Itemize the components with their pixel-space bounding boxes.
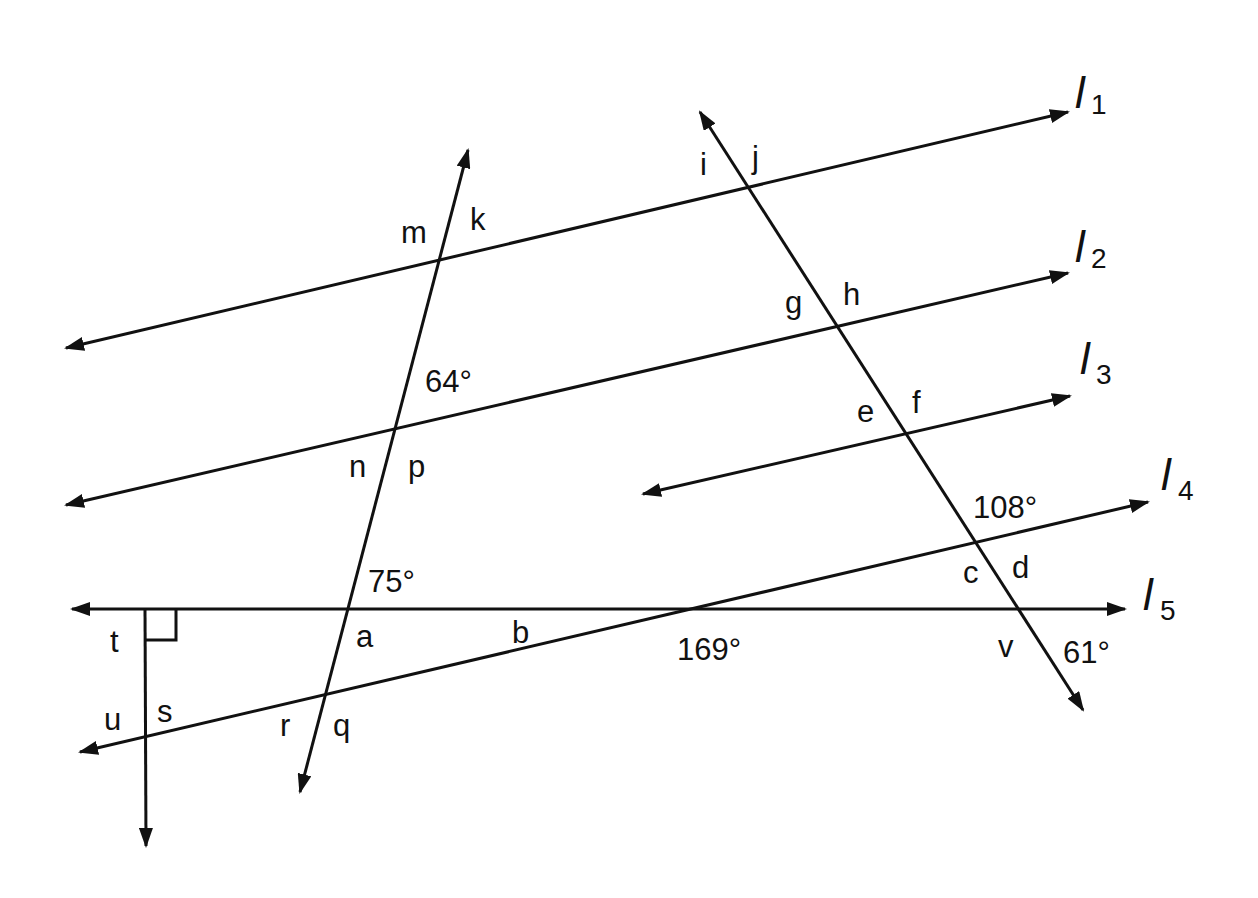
label-l4: l 4	[1161, 450, 1194, 506]
svg-text:5: 5	[1160, 595, 1176, 626]
label-l3: l 3	[1080, 334, 1112, 390]
geometry-diagram: l 1 l 2 l 3 l 4 l 5 i j m k g h e f n p …	[0, 0, 1258, 898]
angle-measure-108: 108°	[973, 490, 1037, 525]
svg-text:l: l	[1080, 334, 1091, 383]
angle-label-t: t	[110, 624, 119, 659]
transversal-right	[700, 112, 1083, 710]
label-l2: l 2	[1075, 222, 1107, 274]
svg-text:1: 1	[1091, 89, 1107, 120]
angle-measure-61: 61°	[1063, 635, 1110, 670]
svg-text:l: l	[1143, 570, 1154, 619]
angle-label-r: r	[280, 708, 290, 743]
label-l5: l 5	[1143, 570, 1176, 626]
angle-measure-75: 75°	[368, 564, 415, 599]
angle-label-k: k	[470, 202, 486, 237]
angle-label-a: a	[356, 619, 374, 654]
label-l1: l 1	[1075, 68, 1107, 120]
angle-label-q: q	[333, 708, 350, 743]
angle-label-m: m	[401, 215, 427, 250]
angle-label-d: d	[1012, 550, 1029, 585]
svg-text:3: 3	[1096, 359, 1112, 390]
svg-text:l: l	[1075, 222, 1086, 271]
svg-text:l: l	[1161, 450, 1172, 499]
angle-label-b: b	[512, 615, 529, 650]
transversal-vertical	[145, 609, 146, 846]
svg-text:4: 4	[1178, 475, 1194, 506]
svg-text:l: l	[1075, 68, 1086, 117]
angle-label-i: i	[700, 147, 707, 182]
angle-label-f: f	[912, 385, 921, 420]
angle-label-e: e	[857, 394, 874, 429]
angle-label-c: c	[963, 555, 979, 590]
right-angle-marker	[146, 609, 176, 640]
angle-label-g: g	[785, 285, 802, 320]
angle-label-n: n	[349, 449, 366, 484]
angle-label-s: s	[157, 694, 173, 729]
angle-label-p: p	[408, 449, 425, 484]
angle-measure-169: 169°	[677, 632, 741, 667]
line-l1	[66, 112, 1068, 348]
angle-label-u: u	[104, 702, 121, 737]
svg-text:2: 2	[1091, 243, 1107, 274]
transversal-left	[300, 150, 468, 792]
angle-label-h: h	[843, 277, 860, 312]
angle-measure-64: 64°	[425, 364, 472, 399]
line-l4	[80, 502, 1148, 752]
angle-label-v: v	[998, 629, 1014, 664]
angle-label-j: j	[751, 140, 759, 175]
